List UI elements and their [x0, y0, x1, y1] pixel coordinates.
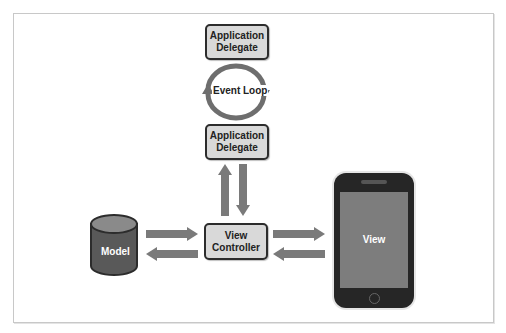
view-controller-line2: Controller [212, 242, 260, 254]
view-controller-line1: View [212, 230, 260, 242]
model-label: Model [101, 246, 130, 257]
arrow-left-view-to-controller-icon [273, 247, 325, 261]
model-database-icon [89, 214, 139, 276]
device-phone: View [334, 173, 414, 308]
device-speaker-icon [361, 180, 387, 184]
event-loop-label: Event Loop [212, 85, 268, 96]
device-screen: View [340, 192, 408, 288]
view-screen-label: View [340, 234, 408, 245]
top-delegate-line1: Application [210, 30, 264, 42]
bottom-delegate-line1: Application [210, 130, 264, 142]
arrow-left-controller-to-model-icon [146, 247, 198, 261]
arrow-up-icon [218, 164, 232, 216]
arrow-right-model-to-controller-icon [146, 227, 198, 241]
arrow-right-controller-to-view-icon [273, 227, 325, 241]
view-controller-box: View Controller [204, 223, 268, 260]
arrow-down-icon [236, 164, 250, 216]
device-home-button-icon [369, 293, 380, 304]
top-delegate-line2: Delegate [210, 42, 264, 54]
top-application-delegate-box: Application Delegate [205, 24, 269, 60]
bottom-application-delegate-box: Application Delegate [205, 124, 269, 160]
bottom-delegate-line2: Delegate [210, 142, 264, 154]
